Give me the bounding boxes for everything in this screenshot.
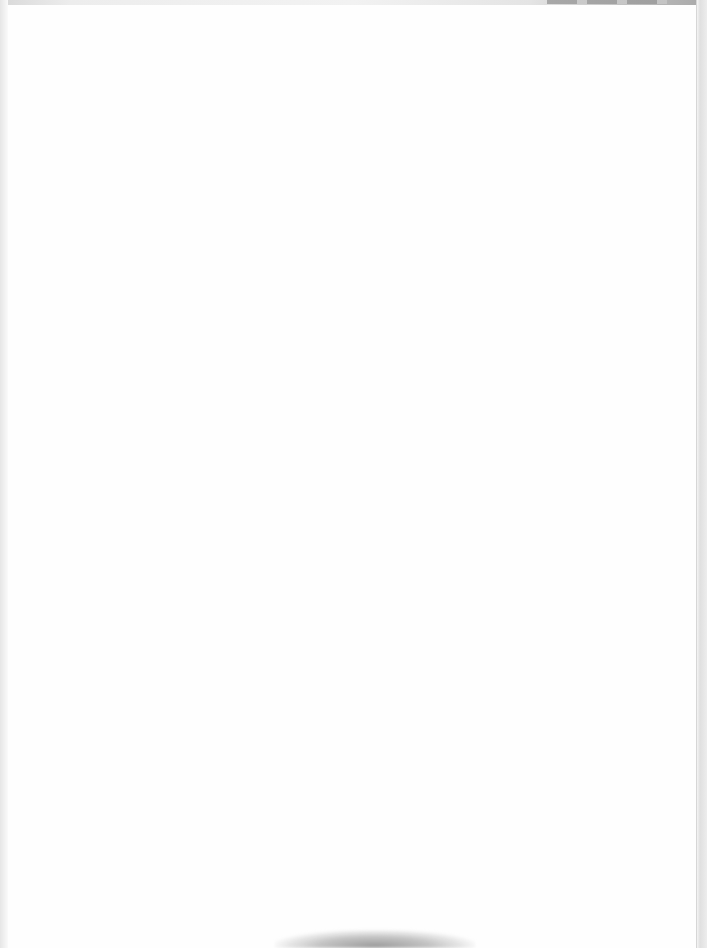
page-content bbox=[40, 40, 660, 900]
left-edge-shadow bbox=[0, 0, 8, 948]
top-edge-scan-artifact bbox=[547, 0, 667, 4]
bottom-scan-smudge bbox=[275, 930, 475, 948]
blank-scanned-page bbox=[0, 0, 707, 948]
right-edge-shadow bbox=[696, 0, 707, 948]
